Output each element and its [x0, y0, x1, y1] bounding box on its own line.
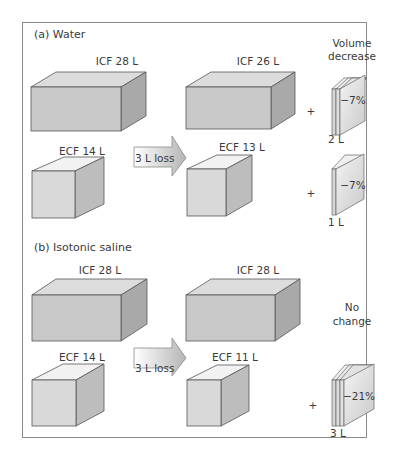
- ecf-after-cube: [187, 365, 249, 426]
- ecf-after-label: ECF 11 L: [212, 351, 258, 363]
- result-header-line1: No: [345, 301, 359, 313]
- ecf-before-label: ECF 14 L: [59, 351, 105, 363]
- panel-a-water: (a) Water ICF 28 L ECF 14 L 3 L loss ICF…: [31, 28, 376, 228]
- ecf-before-label: ECF 14 L: [59, 145, 105, 157]
- ecf-change-percent: −21%: [343, 390, 375, 402]
- icf-after-label: ICF 26 L: [237, 55, 280, 67]
- icf-after-box: [186, 72, 295, 129]
- icf-before-box: [32, 279, 147, 341]
- ecf-change-volume: 3 L: [330, 427, 346, 439]
- icf-after-label: ICF 28 L: [237, 264, 280, 276]
- icf-after-box: [186, 279, 300, 341]
- panel-b-isotonic-saline: (b) Isotonic saline ICF 28 L ECF 14 L 3 …: [32, 241, 375, 439]
- ecf-after-cube: [187, 155, 252, 216]
- panel-a-title: (a) Water: [34, 28, 86, 41]
- result-header-line1: Volume: [332, 37, 371, 49]
- ecf-change-plus: +: [307, 187, 316, 199]
- result-header-line2: change: [333, 315, 372, 327]
- icf-change-plus: +: [307, 105, 316, 117]
- ecf-after-label: ECF 13 L: [219, 141, 265, 153]
- icf-before-label: ICF 28 L: [96, 55, 139, 67]
- arrow-label: 3 L loss: [135, 362, 175, 374]
- fluid-volume-diagram: (a) Water ICF 28 L ECF 14 L 3 L loss ICF…: [0, 0, 398, 466]
- arrow-label: 3 L loss: [135, 152, 175, 164]
- ecf-change-volume: 1 L: [328, 216, 344, 228]
- icf-before-label: ICF 28 L: [79, 264, 122, 276]
- icf-before-box: [31, 72, 146, 131]
- icf-change-percent: −7%: [340, 94, 365, 106]
- icf-change-volume: 2 L: [328, 133, 344, 145]
- panel-b-title: (b) Isotonic saline: [34, 241, 132, 254]
- ecf-before-cube: [32, 157, 104, 218]
- ecf-before-cube: [32, 364, 104, 426]
- result-header-line2: decrease: [328, 50, 376, 62]
- ecf-change-percent: −7%: [340, 179, 365, 191]
- ecf-change-plus: +: [309, 399, 318, 411]
